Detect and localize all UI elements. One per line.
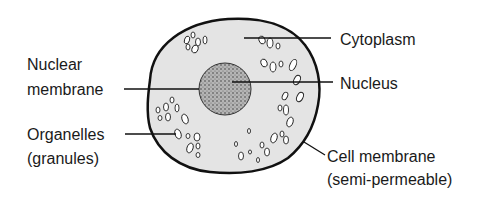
label-organelles-1: Organelles [27, 126, 104, 143]
label-nuclear-membrane-1: Nuclear [27, 56, 83, 73]
label-cell-membrane-1: Cell membrane [327, 148, 436, 165]
label-cytoplasm: Cytoplasm [340, 31, 416, 48]
label-nucleus: Nucleus [340, 75, 398, 92]
cell-membrane-leader [304, 142, 325, 155]
nucleus [199, 63, 251, 115]
cell-diagram: Cytoplasm Nucleus Nuclear membrane Organ… [0, 0, 494, 202]
label-cell-membrane-2: (semi-permeable) [327, 171, 452, 188]
label-nuclear-membrane-2: membrane [27, 81, 104, 98]
label-organelles-2: (granules) [27, 150, 99, 167]
